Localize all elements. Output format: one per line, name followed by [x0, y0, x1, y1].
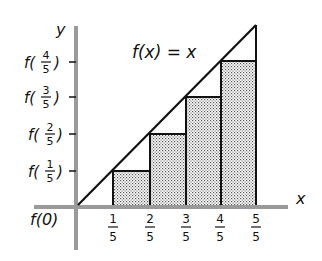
- svg-text:): ): [56, 163, 63, 181]
- svg-text:f(: f(: [28, 163, 40, 181]
- y-tick-label-4: f( 4 5 ): [24, 49, 60, 76]
- rectangle-1: [113, 171, 150, 206]
- rectangle-4: [221, 61, 256, 206]
- svg-text:4: 4: [216, 212, 224, 226]
- origin-label: f(0): [30, 210, 58, 229]
- svg-text:): ): [56, 126, 63, 144]
- svg-text:): ): [53, 89, 60, 107]
- y-tick-label-2: f( 2 5 ): [28, 121, 63, 148]
- x-tick-label-2: 2 5: [145, 212, 155, 244]
- svg-text:5: 5: [43, 63, 50, 76]
- svg-text:2: 2: [47, 121, 54, 134]
- svg-text:5: 5: [216, 230, 224, 244]
- svg-text:f(: f(: [28, 126, 40, 144]
- svg-text:5: 5: [47, 135, 54, 148]
- x-tick-label-3: 3 5: [181, 212, 191, 244]
- svg-text:5: 5: [252, 212, 260, 226]
- riemann-rectangles: [113, 61, 256, 206]
- svg-text:f(: f(: [24, 54, 36, 72]
- svg-text:3: 3: [43, 84, 50, 97]
- y-axis-label: y: [55, 20, 66, 39]
- svg-text:5: 5: [47, 172, 54, 185]
- riemann-sum-diagram: y x f(x) = x f(0) f( 1 5 ) f( 2 5 ) f( 3…: [0, 0, 322, 261]
- x-tick-label-1: 1 5: [108, 212, 118, 244]
- svg-text:4: 4: [43, 49, 50, 62]
- svg-text:2: 2: [146, 212, 154, 226]
- svg-text:5: 5: [182, 230, 190, 244]
- rectangle-3: [186, 97, 221, 206]
- y-tick-label-1: f( 1 5 ): [28, 158, 63, 185]
- svg-text:5: 5: [43, 98, 50, 111]
- x-axis-label: x: [295, 189, 306, 208]
- y-tick-label-3: f( 3 5 ): [24, 84, 60, 111]
- svg-text:3: 3: [182, 212, 190, 226]
- x-tick-label-5: 5 5: [251, 212, 261, 244]
- svg-text:): ): [53, 54, 60, 72]
- rectangle-2: [150, 134, 186, 206]
- svg-text:1: 1: [109, 212, 117, 226]
- svg-text:f(: f(: [24, 89, 36, 107]
- svg-text:5: 5: [252, 230, 260, 244]
- svg-text:1: 1: [47, 158, 54, 171]
- svg-text:5: 5: [109, 230, 117, 244]
- x-tick-label-4: 4 5: [215, 212, 225, 244]
- svg-text:5: 5: [146, 230, 154, 244]
- curve-label: f(x) = x: [132, 42, 197, 62]
